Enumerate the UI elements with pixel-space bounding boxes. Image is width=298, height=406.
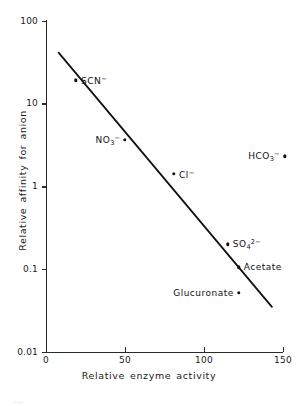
data-point-label: Glucuronate xyxy=(173,288,234,298)
x-axis-line xyxy=(46,352,283,353)
data-point xyxy=(123,138,126,141)
y-tick-label: 100 xyxy=(0,16,38,26)
data-point-label: Acetate xyxy=(244,262,282,272)
x-tick-mark xyxy=(283,347,284,352)
x-tick-label: 0 xyxy=(43,355,49,365)
y-tick-mark xyxy=(42,352,47,353)
figure-caption-text: … xyxy=(14,396,23,405)
y-tick-mark xyxy=(42,186,47,187)
figure-caption-clipped: … xyxy=(0,396,298,406)
data-point xyxy=(172,172,175,175)
y-tick-mark xyxy=(42,21,47,22)
data-point-label: HCO3− xyxy=(248,150,279,163)
x-axis-title: Relative enzyme activity xyxy=(0,370,298,381)
data-point-label: SO42− xyxy=(233,238,261,251)
data-point xyxy=(74,79,77,82)
figure-scatter-affinity-vs-activity: 1001010.10.01 050100150 Relative affinit… xyxy=(0,0,298,406)
data-point xyxy=(226,242,229,245)
x-tick-label: 150 xyxy=(274,355,292,365)
trend-line xyxy=(0,0,298,406)
plot-area: SCN−NO3−Cl−HCO3−SO42−AcetateGlucuronate xyxy=(0,0,298,406)
x-tick-label: 100 xyxy=(195,355,213,365)
x-tick-mark xyxy=(46,347,47,352)
data-point xyxy=(283,155,286,158)
x-tick-label: 50 xyxy=(119,355,131,365)
data-point xyxy=(237,266,240,269)
data-point-label: SCN− xyxy=(81,75,107,86)
y-tick-label: 0.01 xyxy=(0,347,38,357)
y-tick-mark xyxy=(42,103,47,104)
x-tick-mark xyxy=(204,347,205,352)
data-point-label: Cl− xyxy=(179,169,194,180)
y-tick-mark xyxy=(42,269,47,270)
x-tick-mark xyxy=(125,347,126,352)
data-point-label: NO3− xyxy=(95,134,120,147)
data-point xyxy=(237,291,240,294)
y-axis-title: Relative affinity for anion xyxy=(17,66,28,296)
